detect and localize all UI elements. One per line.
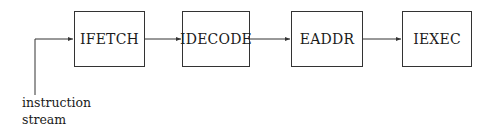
stage-label: IEXEC <box>413 31 461 47</box>
input-label-line1: instruction <box>22 94 91 111</box>
stage-label: EADDR <box>300 31 354 47</box>
stage-label: IFETCH <box>80 31 139 47</box>
input-label-line2: stream <box>22 111 91 128</box>
stage-ifetch: IFETCH <box>74 11 145 67</box>
input-arrow <box>35 39 73 95</box>
input-label: instruction stream <box>22 94 91 128</box>
stage-idecode: IDECODE <box>182 11 250 67</box>
stage-iexec: IEXEC <box>402 11 472 67</box>
stage-eaddr: EADDR <box>291 11 363 67</box>
stage-label: IDECODE <box>180 31 252 47</box>
